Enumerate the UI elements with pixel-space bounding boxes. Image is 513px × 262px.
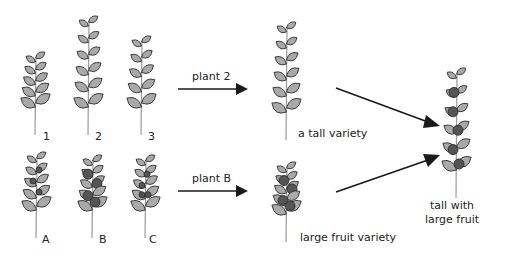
leaf (287, 37, 297, 45)
leaf (24, 77, 36, 86)
plant-1 (21, 52, 50, 135)
plant-2 (74, 16, 103, 135)
label-plant-b: B (99, 233, 107, 246)
leaf (78, 35, 88, 43)
arrow-bottom (178, 185, 248, 197)
fruit (30, 178, 36, 184)
leaf (89, 62, 102, 71)
fruit (285, 201, 295, 211)
leaf (447, 72, 456, 79)
leaf (83, 159, 92, 166)
leaf (457, 139, 471, 149)
plant-b (78, 155, 107, 238)
result-large-fruit-variety (272, 162, 301, 242)
leaf (77, 51, 88, 59)
leaf (287, 68, 300, 77)
leaf (36, 73, 48, 82)
leaf (36, 52, 45, 59)
fruit (453, 125, 463, 135)
leaf (276, 41, 286, 49)
leaf (142, 93, 157, 104)
fruit (449, 87, 459, 97)
leaf (21, 97, 36, 108)
label-combined-line1: tall with (430, 199, 474, 212)
leaf (36, 62, 47, 70)
leaf (127, 97, 142, 108)
leaf (26, 56, 35, 63)
leaf (142, 36, 151, 43)
leaf (79, 20, 88, 27)
fruit (139, 183, 145, 189)
leaf (130, 69, 142, 78)
leaf (287, 53, 298, 61)
leaf (25, 66, 36, 74)
label-tall-variety: a tall variety (298, 127, 368, 140)
leaf (76, 66, 89, 75)
leaf (37, 174, 49, 183)
fruit (90, 197, 100, 207)
leaf (287, 22, 296, 29)
leaf (287, 98, 302, 109)
leaf (142, 79, 155, 89)
plant-c (131, 155, 160, 238)
arrow-tall-to-combined (336, 88, 440, 128)
fruit (454, 159, 464, 169)
fruit (279, 176, 289, 186)
leaf (128, 83, 141, 93)
leaf (457, 68, 466, 75)
arrow-top (178, 83, 248, 95)
stem (88, 22, 89, 135)
leaf (146, 155, 155, 162)
leaf (272, 102, 287, 113)
fruit (144, 171, 150, 177)
leaf (131, 200, 146, 211)
leaf (287, 162, 296, 169)
leaf (277, 166, 286, 173)
result-tall-with-large-fruit (442, 68, 471, 198)
label-plant-a: A (42, 233, 50, 246)
label-arrow-plant-2: plant 2 (192, 70, 231, 83)
leaf (93, 165, 104, 173)
leaf (22, 87, 35, 97)
fruit (36, 167, 42, 173)
leaf (89, 31, 99, 39)
leaf (89, 93, 104, 104)
leaf (37, 152, 46, 159)
leaf (22, 200, 37, 211)
label-arrow-plant-b: plant B (192, 172, 231, 185)
leaf (136, 159, 145, 166)
leaf (273, 87, 287, 97)
leaf (89, 16, 98, 23)
leaf (277, 26, 286, 33)
label-plant-2: 2 (95, 130, 102, 143)
leaf (26, 167, 37, 175)
leaf (74, 97, 89, 108)
plant-3 (127, 36, 156, 135)
label-combined-line2: large fruit (425, 213, 480, 226)
leaf (131, 54, 142, 62)
label-plant-c: C (149, 233, 157, 246)
leaf (274, 72, 287, 81)
label-plant-1: 1 (43, 130, 50, 143)
arrow-fruit-to-combined (336, 154, 440, 192)
fruit (145, 192, 151, 198)
leaf (75, 82, 89, 92)
leaf (37, 196, 52, 207)
leaf (272, 204, 287, 215)
fruit (83, 169, 93, 179)
leaf (275, 57, 286, 65)
leaf (36, 93, 51, 104)
leaf (89, 47, 100, 55)
fruit (139, 192, 145, 198)
stem (286, 28, 287, 140)
fruit (448, 145, 458, 155)
label-plant-3: 3 (148, 130, 155, 143)
leaf (287, 83, 301, 93)
breeding-diagram: 1 2 3 A B C plant 2 plant B a tall varie… (0, 0, 513, 262)
leaf (142, 65, 154, 74)
plant-a (22, 152, 51, 238)
label-large-fruit-variety: large fruit variety (300, 231, 397, 244)
fruit (36, 189, 42, 195)
leaf (27, 156, 36, 163)
leaf (142, 50, 153, 58)
